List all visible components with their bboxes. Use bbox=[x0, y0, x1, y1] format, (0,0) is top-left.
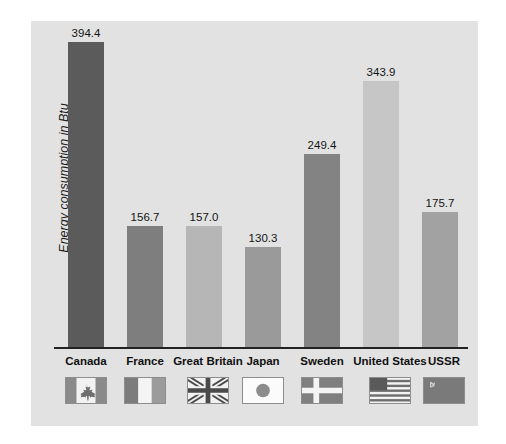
bar-value-label: 130.3 bbox=[249, 232, 278, 244]
category-label: USSR bbox=[412, 354, 476, 368]
bar[interactable] bbox=[422, 212, 458, 348]
bar[interactable] bbox=[304, 154, 340, 348]
flag-great-britain-icon bbox=[187, 377, 229, 404]
legend-item-ussr[interactable]: USSR bbox=[412, 354, 476, 404]
plot-area: 394.4156.7157.0130.3249.4343.9175.7 bbox=[31, 21, 478, 348]
bar-value-label: 343.9 bbox=[367, 66, 396, 78]
flag-united-states-icon bbox=[369, 377, 411, 404]
category-legend: CanadaFranceGreat BritainJapanSwedenUnit… bbox=[31, 354, 478, 426]
flag-france-icon bbox=[124, 377, 166, 404]
bar-value-label: 157.0 bbox=[190, 211, 219, 223]
chart-screenshot: Energy consumption in Btu 394.4156.7157.… bbox=[0, 0, 506, 444]
bar[interactable] bbox=[127, 226, 163, 348]
chart-panel: Energy consumption in Btu 394.4156.7157.… bbox=[31, 21, 478, 426]
bar-value-label: 394.4 bbox=[72, 27, 101, 39]
flag-japan-icon bbox=[242, 377, 284, 404]
flag-canada-icon bbox=[65, 377, 107, 404]
bar[interactable] bbox=[363, 81, 399, 348]
bar[interactable] bbox=[68, 42, 104, 348]
bar[interactable] bbox=[245, 247, 281, 348]
bar-value-label: 156.7 bbox=[131, 211, 160, 223]
flag-ussr-icon bbox=[423, 377, 465, 404]
x-axis-line bbox=[54, 347, 468, 349]
bar-value-label: 175.7 bbox=[426, 197, 455, 209]
flag-sweden-icon bbox=[301, 377, 343, 404]
bar[interactable] bbox=[186, 226, 222, 348]
bar-value-label: 249.4 bbox=[308, 139, 337, 151]
